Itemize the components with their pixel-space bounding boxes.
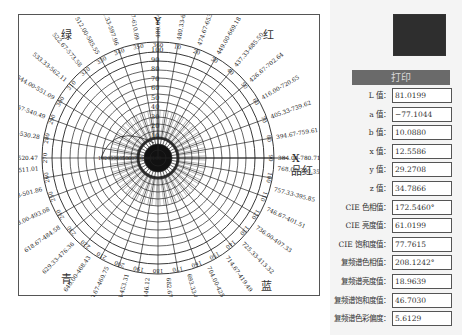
hue-tick: 250 bbox=[47, 190, 56, 202]
scale-tick: 70 bbox=[151, 75, 159, 83]
value-field[interactable]: −77.1044 bbox=[392, 107, 452, 122]
hue-tick: 280 bbox=[43, 132, 51, 144]
wavelength-label: 490.67-610.89 bbox=[127, 15, 140, 41]
wavelength-label: 693.33-432.39 bbox=[186, 273, 203, 297]
hue-tick: 240 bbox=[55, 208, 66, 221]
value-row: 复频谱亮度值：18.9639 bbox=[330, 274, 462, 290]
value-label: x 值： bbox=[369, 144, 390, 160]
value-label: 复频谱亮度值： bbox=[341, 274, 390, 290]
wavelength-label: 672.00-446.12 bbox=[141, 277, 151, 297]
value-row: 复频谱饱和度值：46.7030 bbox=[330, 293, 462, 309]
wavelength-label: 544.00-551.09 bbox=[19, 74, 56, 101]
hue-tick: 310 bbox=[66, 79, 78, 91]
hue-tick: 30 bbox=[210, 56, 219, 65]
hue-tick: 340 bbox=[113, 47, 125, 56]
wavelength-label: 608.00-493.08 bbox=[19, 206, 51, 230]
wavelength-label: 704.00-425.84 bbox=[206, 265, 230, 297]
hue-tick: 130 bbox=[239, 225, 251, 237]
hue-tick: 20 bbox=[192, 48, 201, 56]
value-row: y 值：29.2708 bbox=[330, 162, 462, 178]
value-label: CIE 亮度值： bbox=[345, 218, 390, 234]
value-label: b 值： bbox=[369, 125, 390, 141]
value-row: CIE 色相值：172.5460° bbox=[330, 200, 462, 216]
value-field[interactable]: 10.0880 bbox=[392, 125, 452, 140]
value-label: 复频谱饱和度值： bbox=[334, 293, 390, 309]
wavelength-label: 426.67-702.64 bbox=[248, 51, 285, 83]
wavelength-label: 512.00-585.55 bbox=[74, 16, 101, 56]
value-row: z 值：34.7866 bbox=[330, 181, 462, 197]
wavelength-label: 682.67-439.15 bbox=[165, 277, 175, 297]
value-row: b 值：10.0880 bbox=[330, 125, 462, 141]
hue-tick: 320 bbox=[79, 65, 91, 77]
wavelength-label: 757.33-395.85 bbox=[273, 186, 316, 203]
value-row: 复频谱色相值：208.1242° bbox=[330, 255, 462, 271]
hue-tick: 230 bbox=[65, 224, 77, 236]
value-row: 复频谱色彩偏度：5.6129 bbox=[330, 311, 462, 327]
hue-tick: 290 bbox=[47, 113, 56, 125]
wavelength-label: 661.33-453.31 bbox=[113, 273, 130, 297]
wavelength-label: 736.00-407.33 bbox=[255, 224, 294, 253]
scale-tick: 20 bbox=[151, 122, 159, 130]
scale-tick: 10 bbox=[151, 132, 159, 140]
hue-tick: 140 bbox=[224, 239, 236, 251]
value-label: a 值： bbox=[369, 107, 390, 123]
scale-tick: 50 bbox=[151, 94, 159, 102]
hue-tick: 150 bbox=[208, 251, 221, 262]
hue-tick: 180 bbox=[152, 268, 163, 274]
value-field[interactable]: 61.0199 bbox=[392, 218, 452, 233]
magenta-label: 品红 bbox=[291, 165, 313, 178]
value-field[interactable]: 77.7615 bbox=[392, 237, 452, 252]
print-button[interactable]: 打印 bbox=[352, 70, 450, 85]
value-field[interactable]: 208.1242° bbox=[392, 255, 452, 270]
cyan-label: 青 bbox=[61, 273, 72, 286]
wavelength-label: 474.67-653.62 bbox=[196, 15, 216, 46]
scale-tick: 80 bbox=[151, 65, 159, 73]
value-row: a 值：−77.1044 bbox=[330, 107, 462, 123]
value-field[interactable]: 46.7030 bbox=[392, 293, 452, 308]
value-field[interactable]: 81.0199 bbox=[392, 88, 452, 103]
color-values-panel: 打印 L 值：81.0199a 值：−77.1044b 值：10.0880x 值… bbox=[330, 0, 462, 335]
hue-tick: 220 bbox=[79, 239, 91, 251]
svg-text:100: 100 bbox=[152, 155, 162, 161]
wavelength-label: 597.33-501.86 bbox=[19, 186, 43, 203]
value-label: CIE 色相值： bbox=[345, 200, 390, 216]
hue-tick: 110 bbox=[259, 191, 268, 203]
wavelength-label: 618.67-484.58 bbox=[23, 224, 62, 253]
value-label: CIE 饱和度值： bbox=[338, 237, 390, 253]
wavelength-label: 650.67-460.75 bbox=[87, 265, 111, 297]
value-row: x 值：12.5586 bbox=[330, 144, 462, 160]
blue-label: 蓝 bbox=[261, 280, 272, 293]
hue-tick: 70 bbox=[260, 115, 268, 124]
polar-grid: 1009080706050403020101020304050607080901… bbox=[19, 15, 321, 297]
wavelength-label: 437.33-685.50 bbox=[233, 31, 265, 68]
value-field[interactable]: 5.6129 bbox=[392, 311, 452, 326]
wavelength-label: 576.00-520.47 bbox=[19, 155, 38, 161]
value-row: CIE 饱和度值：77.7615 bbox=[330, 237, 462, 253]
red-label: 红 bbox=[263, 29, 274, 42]
hue-tick: 90 bbox=[268, 155, 274, 162]
scale-tick: 40 bbox=[151, 103, 159, 111]
green-label: 绿 bbox=[61, 28, 72, 42]
value-label: y 值： bbox=[369, 162, 390, 178]
hue-tick: 100 bbox=[265, 172, 273, 184]
value-field[interactable]: 29.2708 bbox=[392, 162, 452, 177]
value-label: z 值： bbox=[370, 181, 390, 197]
hue-tick: 170 bbox=[171, 265, 183, 273]
hue-tick: 330 bbox=[95, 55, 108, 66]
wavelength-label: 629.33-476.36 bbox=[41, 241, 76, 276]
wavelength-label: 394.67-759.61 bbox=[276, 127, 319, 140]
value-field[interactable]: 12.5586 bbox=[392, 144, 452, 159]
wavelength-label: 565.33-530.28 bbox=[19, 127, 41, 140]
wavelength-label: 746.67-401.51 bbox=[265, 206, 306, 229]
value-field[interactable]: 34.7866 bbox=[392, 181, 452, 196]
wavelength-label: 586.67-511.01 bbox=[19, 165, 39, 175]
value-field[interactable]: 18.9639 bbox=[392, 274, 452, 289]
hue-tick: 300 bbox=[55, 95, 66, 108]
wavelength-label: 725.33-413.32 bbox=[241, 241, 276, 276]
hue-tick: 200 bbox=[113, 259, 125, 268]
value-field[interactable]: 172.5460° bbox=[392, 200, 452, 215]
wavelength-label: 480.33-638.76 bbox=[176, 15, 189, 40]
hue-tick: 80 bbox=[266, 134, 273, 142]
hue-tick: 260 bbox=[43, 171, 51, 183]
value-label: 复频谱色彩偏度： bbox=[334, 311, 390, 327]
